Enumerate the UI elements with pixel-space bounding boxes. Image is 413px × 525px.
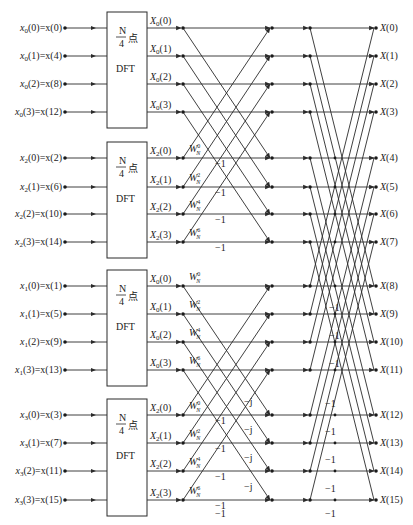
node-dot [63, 26, 67, 30]
box-n-label: N [119, 155, 126, 166]
node-dot [270, 498, 274, 502]
node-dot [270, 212, 274, 216]
dft-output-label: X0(1) [149, 301, 171, 314]
node-dot [308, 340, 312, 344]
twiddle-factor: W6N [189, 227, 201, 240]
node-dot [181, 413, 185, 417]
dft-output-label: X0(2) [149, 71, 171, 84]
node-dot [63, 498, 67, 502]
node-dot [334, 285, 337, 288]
twiddle-factor: W6N [189, 355, 201, 368]
box-point-label: 点 [128, 420, 138, 431]
node-dot [374, 26, 378, 30]
node-dot [334, 369, 337, 372]
twiddle-factor: W0N [189, 400, 201, 413]
node-dot [334, 213, 337, 216]
box-4-label: 4 [119, 296, 124, 307]
final-output-label: X(4) [379, 152, 398, 164]
node-dot [181, 185, 185, 189]
node-dot [334, 442, 337, 445]
node-dot [334, 186, 337, 189]
node-dot [374, 441, 378, 445]
box-4-label: 4 [119, 425, 124, 436]
dft-output-label: X0(0) [149, 273, 171, 286]
final-output-label: X(9) [379, 308, 398, 320]
node-dot [181, 469, 185, 473]
minus-one-label: −1 [215, 443, 226, 454]
node-dot [308, 469, 312, 473]
node-dot [308, 413, 312, 417]
final-output-label: X(1) [379, 50, 398, 62]
box-dft-label: DFT [116, 450, 135, 461]
node-dot [181, 240, 185, 244]
box-point-label: 点 [128, 33, 138, 44]
node-dot [63, 185, 67, 189]
final-output-label: X(12) [379, 409, 403, 421]
twiddle-factor: W0N [189, 271, 201, 284]
input-label: x2(0)=x(2) [19, 152, 62, 165]
node-dot [374, 469, 378, 473]
node-dot [270, 368, 274, 372]
node-dot [334, 157, 337, 160]
twiddle-factor: W4N [189, 456, 201, 469]
minus-one-label: −1 [325, 483, 336, 494]
node-dot [374, 110, 378, 114]
box-4-label: 4 [119, 168, 124, 179]
node-dot [270, 185, 274, 189]
minus-one-label: −1 [215, 471, 226, 482]
dft-output-label: X2(2) [149, 201, 171, 214]
node-dot [334, 341, 337, 344]
node-dot [181, 441, 185, 445]
minus-one-label: −1 [215, 158, 226, 169]
minus-one-label: −1 [215, 242, 226, 253]
twiddle-factor: W2N [189, 172, 201, 185]
dft-output-label: X0(3) [149, 357, 171, 370]
dft-output-label: X0(1) [149, 43, 171, 56]
node-dot [374, 413, 378, 417]
minus-one-label: −1 [325, 426, 336, 437]
minus-one-label: −1 [325, 454, 336, 465]
node-dot [374, 368, 378, 372]
node-dot [308, 498, 312, 502]
dft-output-label: X2(1) [149, 430, 171, 443]
dft-output-label: X2(3) [149, 487, 171, 500]
input-label: x2(3)=x(14) [14, 236, 62, 249]
dft-output-label: X2(0) [149, 145, 171, 158]
minus-j-label: −j [244, 396, 252, 407]
node-dot [308, 82, 312, 86]
minus-one-label: −1 [215, 508, 226, 519]
node-dot [270, 156, 274, 160]
node-dot [270, 284, 274, 288]
minus-one-label: −1 [325, 508, 336, 519]
box-point-label: 点 [128, 163, 138, 174]
input-label: x3(2)=x(11) [14, 465, 62, 478]
node-dot [270, 26, 274, 30]
node-dot [63, 212, 67, 216]
node-dot [374, 340, 378, 344]
box-n-label: N [119, 283, 126, 294]
node-dot [63, 110, 67, 114]
node-dot [374, 284, 378, 288]
input-label: x0(2)=x(8) [19, 78, 62, 91]
node-dot [308, 110, 312, 114]
node-dot [181, 212, 185, 216]
dft-output-label: X0(2) [149, 329, 171, 342]
node-dot [270, 312, 274, 316]
final-output-label: X(5) [379, 181, 398, 193]
minus-j-label: −j [244, 481, 252, 492]
node-dot [334, 313, 337, 316]
node-dot [181, 156, 185, 160]
node-dot [181, 368, 185, 372]
node-dot [270, 469, 274, 473]
box-dft-label: DFT [116, 63, 135, 74]
node-dot [308, 441, 312, 445]
node-dot [374, 212, 378, 216]
final-output-label: X(7) [379, 236, 398, 248]
box-dft-label: DFT [116, 321, 135, 332]
final-output-label: X(14) [379, 465, 403, 477]
final-output-label: X(13) [379, 437, 403, 449]
node-dot [334, 470, 337, 473]
node-dot [63, 368, 67, 372]
node-dot [181, 498, 185, 502]
node-dot [63, 284, 67, 288]
